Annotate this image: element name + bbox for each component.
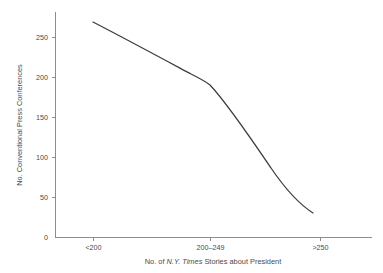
data-series-line [93, 22, 313, 213]
line-chart: 250 200 150 100 50 0 <200 200–249 >250 N… [0, 0, 383, 273]
x-axis-title-suffix: Stories about President [202, 257, 281, 266]
x-axis-title-prefix: No. of [145, 257, 167, 266]
y-tick-label-50: 50 [40, 193, 48, 202]
y-axis-title: No. Conventional Press Conferences [15, 64, 24, 186]
x-tick-label-200-249: 200–249 [197, 243, 225, 252]
chart-figure: 250 200 150 100 50 0 <200 200–249 >250 N… [0, 0, 383, 273]
y-tick-label-150: 150 [36, 113, 48, 122]
x-axis-title-italic: N.Y. Times [167, 257, 203, 266]
x-axis-title: No. of N.Y. Times Stories about Presiden… [145, 257, 281, 266]
x-tick-label-lt200: <200 [85, 243, 101, 252]
y-tick-label-200: 200 [36, 73, 48, 82]
x-tick-label-gt250: >250 [312, 243, 328, 252]
y-tick-label-100: 100 [36, 153, 48, 162]
y-tick-label-0: 0 [44, 233, 48, 242]
y-tick-label-250: 250 [36, 33, 48, 42]
